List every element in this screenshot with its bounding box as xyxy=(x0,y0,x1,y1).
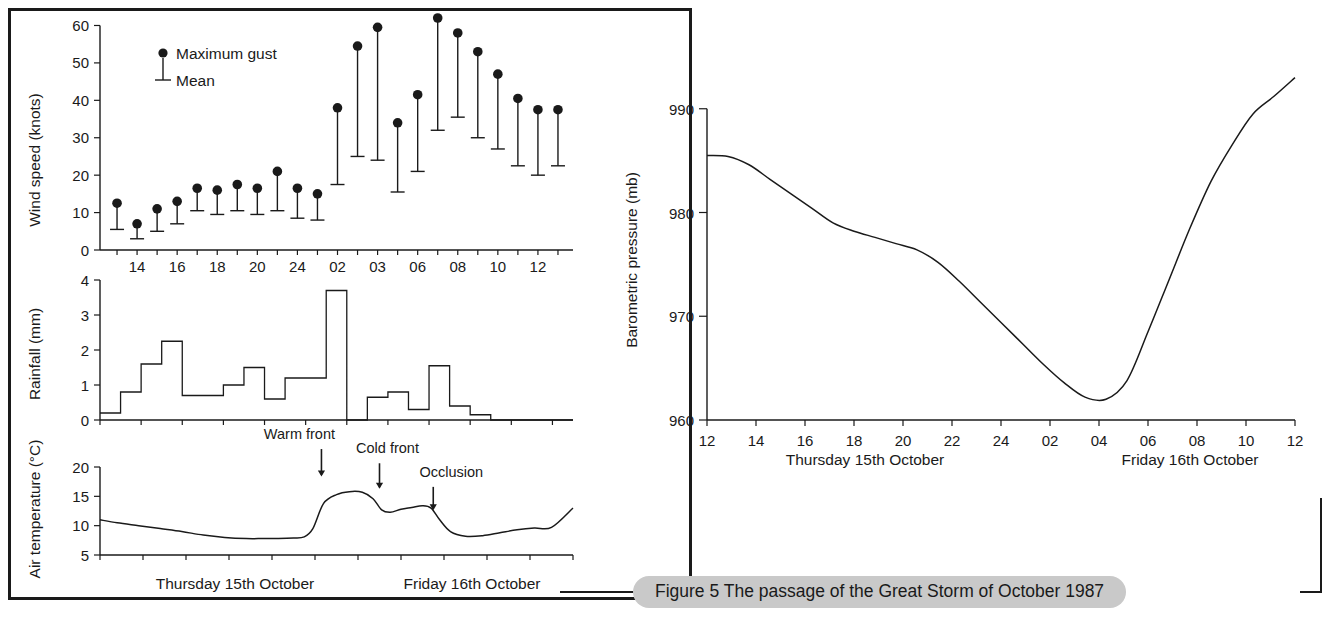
legend-gust-marker xyxy=(158,48,167,57)
temp-day-label-friday: Friday 16th October xyxy=(404,575,541,592)
annotation-arrowhead xyxy=(318,471,325,477)
caption-vertical-rule xyxy=(1320,498,1322,592)
wind-y-tick-label: 30 xyxy=(72,129,89,146)
wind-gust-marker xyxy=(333,103,343,113)
wind-gust-marker xyxy=(112,198,122,208)
pressure-y-axis-title: Barometric pressure (mb) xyxy=(623,172,640,348)
rain-y-tick-label: 0 xyxy=(81,412,89,429)
wind-y-tick-label: 20 xyxy=(72,167,89,184)
air-temperature-series xyxy=(100,491,573,538)
pressure-x-tick-label: 02 xyxy=(1042,432,1059,449)
annotation-label-occlusion: Occlusion xyxy=(419,464,483,480)
pressure-y-tick-label: 980 xyxy=(669,205,694,222)
wind-y-tick-label: 10 xyxy=(72,204,89,221)
pressure-x-tick-label: 06 xyxy=(1140,432,1157,449)
annotation-label-warm-front: Warm front xyxy=(264,426,335,442)
wind-speed-panel: Wind speed (knots) 010203040506014161820… xyxy=(0,0,600,300)
rainfall-chart: Rainfall (mm) 01234 xyxy=(0,272,600,437)
wind-gust-marker xyxy=(293,183,303,193)
wind-gust-marker xyxy=(172,197,182,207)
pressure-y-tick-label: 960 xyxy=(669,412,694,429)
wind-gust-marker xyxy=(453,28,463,38)
temp-y-axis-title: Air temperature (°C) xyxy=(26,440,43,579)
wind-y-axis-title: Wind speed (knots) xyxy=(26,93,43,227)
annotation-label-cold-front: Cold front xyxy=(356,440,419,456)
wind-y-tick-label: 40 xyxy=(72,92,89,109)
wind-gust-marker xyxy=(232,180,242,190)
rainfall-step-series xyxy=(100,291,573,421)
wind-gust-marker xyxy=(353,41,363,51)
rain-y-tick-label: 4 xyxy=(81,272,89,289)
temp-y-tick-label: 15 xyxy=(72,488,89,505)
wind-y-tick-label: 50 xyxy=(72,54,89,71)
wind-speed-chart: Wind speed (knots) 010203040506014161820… xyxy=(0,0,600,300)
wind-gust-marker xyxy=(132,219,142,229)
pressure-x-tick-label: 10 xyxy=(1238,432,1255,449)
wind-gust-marker xyxy=(473,47,483,57)
temp-y-tick-label: 20 xyxy=(72,459,89,476)
pressure-day-label-thursday: Thursday 15th October xyxy=(786,451,945,468)
pressure-x-tick-label: 04 xyxy=(1091,432,1108,449)
caption-leader-line xyxy=(560,591,635,593)
rainfall-panel: Rainfall (mm) 01234 xyxy=(0,272,600,437)
wind-gust-marker xyxy=(393,118,403,128)
pressure-y-tick-label: 990 xyxy=(669,101,694,118)
wind-gust-marker xyxy=(493,69,503,79)
pressure-x-tick-label: 12 xyxy=(1287,432,1304,449)
figure-page: Wind speed (knots) 010203040506014161820… xyxy=(0,0,1333,620)
pressure-x-tick-label: 16 xyxy=(797,432,814,449)
wind-gust-marker xyxy=(192,183,202,193)
legend-mean-label: Mean xyxy=(176,72,215,89)
pressure-x-tick-label: 12 xyxy=(699,432,716,449)
wind-gust-marker xyxy=(152,204,162,214)
wind-gust-marker xyxy=(253,183,263,193)
wind-y-tick-label: 60 xyxy=(72,17,89,34)
barometric-pressure-series xyxy=(707,78,1295,401)
barometric-pressure-panel: Barometric pressure (mb) 960970980990121… xyxy=(615,70,1325,490)
pressure-y-tick-label: 970 xyxy=(669,308,694,325)
wind-gust-marker xyxy=(433,13,443,23)
pressure-x-tick-label: 08 xyxy=(1189,432,1206,449)
air-temperature-panel: Air temperature (°C) 5101520 Warm frontC… xyxy=(0,437,600,612)
rain-y-axis-title: Rainfall (mm) xyxy=(26,308,43,400)
caption-trailing-line xyxy=(1300,591,1322,593)
wind-gust-marker xyxy=(553,105,563,115)
pressure-x-tick-label: 18 xyxy=(846,432,863,449)
wind-gust-marker xyxy=(413,90,423,100)
pressure-x-tick-label: 20 xyxy=(895,432,912,449)
pressure-x-tick-label: 14 xyxy=(748,432,765,449)
wind-gust-marker xyxy=(513,94,523,104)
wind-gust-marker xyxy=(273,167,283,177)
wind-gust-marker xyxy=(212,185,222,195)
rain-y-tick-label: 2 xyxy=(81,342,89,359)
rain-y-tick-label: 1 xyxy=(81,377,89,394)
barometric-pressure-chart: Barometric pressure (mb) 960970980990121… xyxy=(615,70,1325,490)
wind-y-tick-label: 0 xyxy=(81,242,89,259)
pressure-x-tick-label: 24 xyxy=(993,432,1010,449)
pressure-day-label-friday: Friday 16th October xyxy=(1122,451,1259,468)
wind-gust-marker xyxy=(373,23,383,33)
annotation-arrowhead xyxy=(376,483,383,489)
air-temperature-chart: Air temperature (°C) 5101520 Warm frontC… xyxy=(0,437,600,612)
temp-y-tick-label: 10 xyxy=(72,517,89,534)
rain-y-tick-label: 3 xyxy=(81,307,89,324)
pressure-x-tick-label: 22 xyxy=(944,432,961,449)
legend-gust-label: Maximum gust xyxy=(176,45,277,62)
figure-caption-text: Figure 5 The passage of the Great Storm … xyxy=(633,576,1126,608)
figure-caption: Figure 5 The passage of the Great Storm … xyxy=(633,576,1126,608)
wind-gust-marker xyxy=(313,189,323,199)
temp-y-tick-label: 5 xyxy=(81,547,89,564)
wind-gust-marker xyxy=(533,105,543,115)
temp-day-label-thursday: Thursday 15th October xyxy=(156,575,315,592)
